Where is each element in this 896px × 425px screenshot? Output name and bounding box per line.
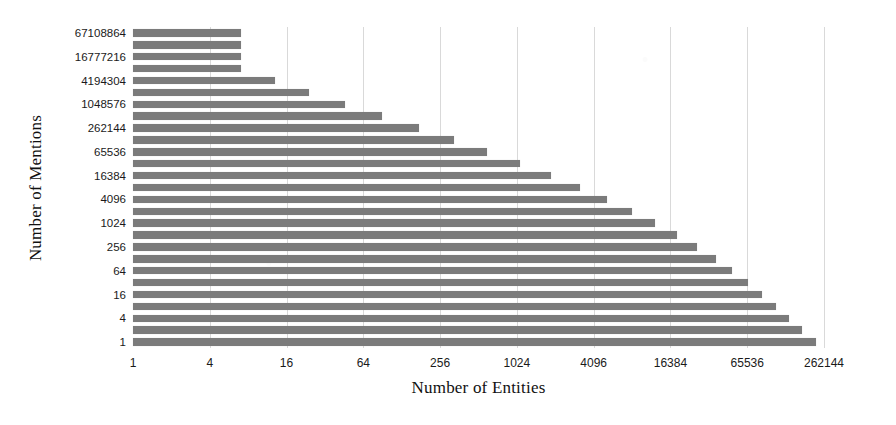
bar: [133, 112, 382, 119]
bar: [133, 89, 309, 96]
bar: [133, 255, 716, 262]
bar: [133, 243, 697, 250]
y-axis-title-container: Number of Mentions: [10, 27, 40, 348]
x-tick-label: 1: [130, 356, 137, 370]
x-gridline: [670, 27, 671, 348]
bar: [133, 65, 241, 72]
bar: [133, 184, 580, 191]
x-tick-label: 4096: [580, 356, 607, 370]
x-gridline: [594, 27, 595, 348]
bar: [133, 219, 655, 226]
bar: [133, 124, 419, 131]
bar: [133, 279, 748, 286]
bar: [133, 338, 816, 345]
x-tick-label: 65536: [731, 356, 764, 370]
bar: [133, 303, 776, 310]
bar: [133, 326, 802, 333]
x-tick-label: 64: [357, 356, 370, 370]
bar: [133, 267, 732, 274]
x-tick-label: 1024: [504, 356, 531, 370]
bar: [133, 208, 632, 215]
bar: [133, 148, 487, 155]
chart-figure: Number of Mentions 141664256102440961638…: [0, 0, 896, 425]
x-axis-title: Number of Entities: [133, 378, 824, 398]
bar: [133, 315, 789, 322]
x-gridline: [747, 27, 748, 348]
bar: [133, 160, 520, 167]
x-gridline: [824, 27, 825, 348]
bar: [133, 101, 345, 108]
x-tick-label: 16: [280, 356, 293, 370]
bar: [133, 136, 454, 143]
bar: [133, 231, 677, 238]
y-axis-title: Number of Mentions: [26, 58, 46, 318]
bar: [133, 41, 241, 48]
x-tick-label: 4: [206, 356, 213, 370]
bar: [133, 29, 241, 36]
x-tick-label: 16384: [654, 356, 687, 370]
plot-area: [133, 27, 824, 348]
bar: [133, 53, 241, 60]
bar: [133, 77, 275, 84]
bar: [133, 291, 762, 298]
x-tick-label: 256: [430, 356, 450, 370]
x-tick-label: 262144: [804, 356, 844, 370]
bar: [133, 196, 607, 203]
bar: [133, 172, 551, 179]
